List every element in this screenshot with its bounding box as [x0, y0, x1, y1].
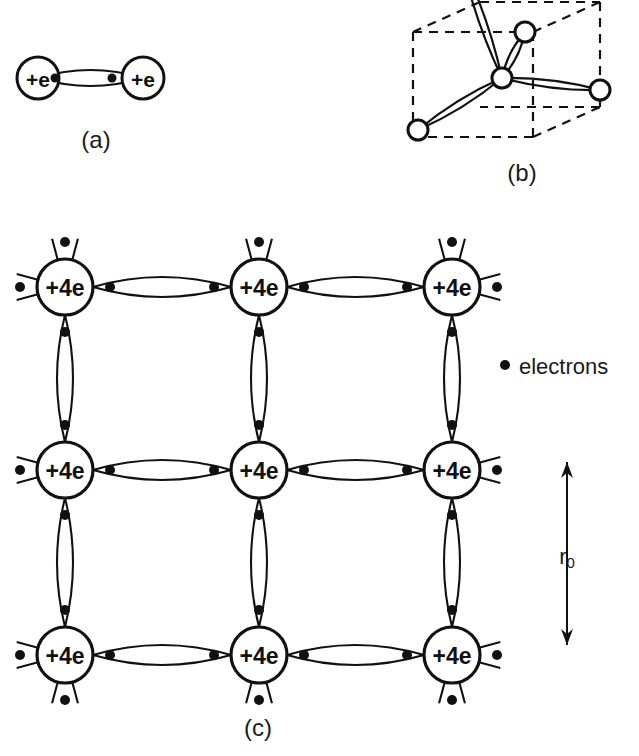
atom-charge-label: +4e — [239, 643, 278, 669]
atom-charge-label: +4e — [239, 275, 278, 301]
electron-dot — [51, 74, 60, 83]
stub-bot-left-r2c1 — [246, 682, 252, 703]
electron-dot-top-r1c1 — [254, 420, 264, 430]
electron-dot-right-r1c2 — [492, 465, 502, 475]
stub-right-down-r0c2 — [479, 294, 500, 300]
panel-label-b: (b) — [507, 159, 536, 186]
lattice-atom-r2c2: +4e — [424, 627, 480, 683]
stub-bot-right-r2c1 — [266, 682, 272, 703]
electron-dot-left-r1c1 — [209, 465, 219, 475]
electron-dot-bottom-r1c0 — [60, 510, 70, 520]
stub-top-right-r0c0 — [72, 239, 78, 260]
atom-charge-label: +4e — [45, 643, 84, 669]
panel-a: +e+e (a) — [17, 57, 164, 153]
electron-dot-top-r2c1 — [254, 605, 264, 615]
cube-edge-connect-tl — [413, 2, 480, 32]
electron-dot-right-r2c1 — [299, 650, 309, 660]
stub-top-left-r0c0 — [52, 239, 58, 260]
cube-edge-connect-tr — [533, 2, 600, 32]
stub-top-right-r0c2 — [459, 239, 465, 260]
tetrahedral-corner-atom-3 — [408, 120, 428, 140]
electron-dot-bottom-r0c1 — [254, 327, 264, 337]
electron-dot-left-r0c1 — [209, 282, 219, 292]
stub-right-up-r2c2 — [479, 642, 500, 648]
stub-left-down-r0c0 — [17, 294, 38, 300]
covalent-bonding-figure: +e+e (a) (b) +4e+4e+4e+4e+4e+4e+4e+4e+4e… — [0, 0, 639, 756]
electron-dot-top-r2c2 — [447, 605, 457, 615]
tetrahedral-corner-atom-2 — [590, 80, 610, 100]
stub-top-left-r0c1 — [246, 239, 252, 260]
legend: electrons — [500, 354, 608, 379]
covalent-bond-3 — [418, 78, 502, 130]
panel-label-c: (c) — [244, 714, 272, 741]
atom-charge-label: +4e — [45, 458, 84, 484]
electron-dot-bottom-r2c2 — [447, 695, 457, 705]
lattice-atom-r1c2: +4e — [424, 442, 480, 498]
lattice-atom-r0c2: +4e — [424, 259, 480, 315]
electron-dot-right-r0c1 — [299, 282, 309, 292]
stub-left-up-r1c0 — [17, 457, 38, 463]
atom-charge-label: +4e — [45, 275, 84, 301]
atom-charge-label: +4e — [239, 458, 278, 484]
stub-right-up-r0c2 — [479, 274, 500, 280]
lattice-atom-group: +4e+4e+4e+4e+4e+4e+4e+4e+4e — [37, 259, 480, 683]
electron-dot-top-r2c0 — [60, 605, 70, 615]
electron-dot-bottom-r0c0 — [60, 327, 70, 337]
electron-dot-bottom-r2c0 — [60, 695, 70, 705]
stub-left-up-r0c0 — [17, 274, 38, 280]
electron-dot-left-r0c0 — [15, 282, 25, 292]
tetrahedral-bond-group — [418, 0, 600, 130]
electron-dot-top-r0c0 — [60, 237, 70, 247]
stub-top-right-r0c1 — [266, 239, 272, 260]
lattice-atom-r2c0: +4e — [37, 627, 93, 683]
lattice-atom-r1c0: +4e — [37, 442, 93, 498]
electron-dot-right-r1c0 — [105, 465, 115, 475]
electron-dot-top-r1c2 — [447, 420, 457, 430]
atom-charge-label: +4e — [432, 643, 471, 669]
electron-dot-left-r2c1 — [209, 650, 219, 660]
electron-dot-right-r2c2 — [492, 650, 502, 660]
lattice-atom-r2c1: +4e — [231, 627, 287, 683]
electron-dot-left-r0c2 — [402, 282, 412, 292]
stub-bot-right-r2c2 — [459, 682, 465, 703]
covalent-bond-2 — [502, 78, 600, 90]
stub-bot-right-r2c0 — [72, 682, 78, 703]
stub-right-up-r1c2 — [479, 457, 500, 463]
tetrahedral-center-atom — [492, 68, 512, 88]
panel-c: +4e+4e+4e+4e+4e+4e+4e+4e+4e (c) — [15, 237, 502, 741]
lattice-atom-r0c0: +4e — [37, 259, 93, 315]
stub-right-down-r2c2 — [479, 662, 500, 668]
lattice-spacing-dimension: r0 — [559, 462, 575, 645]
stub-top-left-r0c2 — [439, 239, 445, 260]
stub-bot-left-r2c0 — [52, 682, 58, 703]
electron-dot-right-r0c0 — [105, 282, 115, 292]
stub-left-down-r1c0 — [17, 477, 38, 483]
electron-dot-bottom-r1c2 — [447, 510, 457, 520]
electron-dot-bottom-r2c1 — [254, 695, 264, 705]
cube-edge-connect-br — [533, 107, 600, 137]
legend-label: electrons — [519, 354, 608, 379]
electron-dot — [108, 74, 117, 83]
electron-dot-left-r2c0 — [15, 650, 25, 660]
electron-dot-top-r0c1 — [254, 237, 264, 247]
electron-dot-right-r2c0 — [105, 650, 115, 660]
lattice-atom-r1c1: +4e — [231, 442, 287, 498]
electron-dot-icon — [500, 360, 510, 370]
atom-group-a: +e+e — [17, 57, 164, 99]
stub-left-up-r2c0 — [17, 642, 38, 648]
panel-label-a: (a) — [81, 126, 110, 153]
stub-left-down-r2c0 — [17, 662, 38, 668]
stub-bot-left-r2c2 — [439, 682, 445, 703]
covalent-bond-4 — [462, 0, 502, 78]
panel-b: (b) — [408, 0, 610, 186]
atom-core-2: +e — [122, 57, 164, 99]
electron-dot-bottom-r1c1 — [254, 510, 264, 520]
electron-dot-top-r1c0 — [60, 420, 70, 430]
atom-charge-label: +4e — [432, 458, 471, 484]
atom-charge-label: +4e — [432, 275, 471, 301]
tetrahedral-atom-group — [408, 0, 610, 140]
atom-charge-label: +e — [131, 68, 155, 91]
electron-dot-left-r1c2 — [402, 465, 412, 475]
atom-charge-label: +e — [26, 68, 50, 91]
lattice-atom-r0c1: +4e — [231, 259, 287, 315]
